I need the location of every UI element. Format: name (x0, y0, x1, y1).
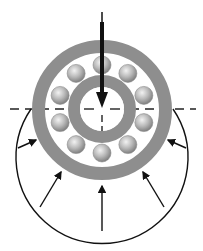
bearing-load-diagram (0, 0, 203, 251)
ball (67, 136, 85, 154)
ball (119, 136, 137, 154)
ball (135, 114, 153, 132)
ball (93, 144, 111, 162)
ball (51, 114, 69, 132)
ball (67, 64, 85, 82)
ball (51, 86, 69, 104)
ball (119, 64, 137, 82)
figure-caption (0, 244, 203, 251)
ball (135, 86, 153, 104)
